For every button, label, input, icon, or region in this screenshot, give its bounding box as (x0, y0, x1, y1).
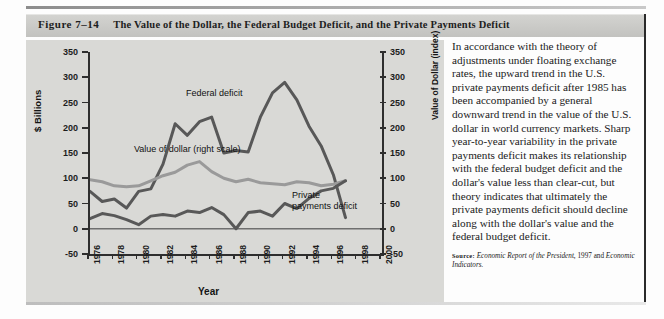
y-tick (82, 177, 88, 179)
y-tick (380, 51, 386, 53)
y2-axis-title: Value of Dollar (index) (430, 31, 440, 120)
y-tick (380, 127, 386, 129)
explanatory-paragraph: In accordance with the theory of adjustm… (452, 40, 638, 244)
x-tick (282, 254, 284, 259)
y-tick (380, 228, 386, 230)
x-axis-title: Year (198, 286, 219, 297)
x-tick-label: 1980 (141, 245, 151, 264)
y2-tick-label: -50 (390, 249, 420, 259)
series-label-federal-deficit: Federal deficit (186, 88, 243, 98)
y2-tick-label: 300 (390, 72, 420, 82)
y-tick-label: 350 (48, 47, 78, 57)
x-tick-label: 2000 (384, 245, 394, 264)
x-tick-label: 1986 (214, 245, 224, 264)
y-tick (380, 152, 386, 154)
y-tick (380, 177, 386, 179)
figure-title: The Value of the Dollar, the Federal Bud… (113, 19, 510, 30)
x-tick-label: 1998 (360, 245, 370, 264)
top-rule (26, 6, 646, 9)
y-tick-label: 150 (48, 148, 78, 158)
y2-tick-label: 350 (390, 47, 420, 57)
y-tick-label: 200 (48, 123, 78, 133)
series-label-value-of-dollar: Value of dollar (right scale) (134, 144, 240, 154)
y-tick (380, 76, 386, 78)
figure-number: Figure 7–14 (38, 18, 99, 30)
y-tick (82, 127, 88, 129)
y2-tick-label: 200 (390, 123, 420, 133)
y-tick-label: 100 (48, 173, 78, 183)
y-tick-label: 250 (48, 98, 78, 108)
x-tick-label: 1992 (287, 245, 297, 264)
x-tick-label: 1982 (165, 245, 175, 264)
x-tick-label: 1996 (335, 245, 345, 264)
x-tick (87, 254, 89, 259)
x-tick (306, 254, 308, 259)
x-tick-label: 1978 (116, 245, 126, 264)
source-label: Source: (452, 252, 475, 259)
y2-tick-label: 250 (390, 98, 420, 108)
y-tick (380, 102, 386, 104)
sidebar-text-column: In accordance with the theory of adjustm… (452, 40, 638, 302)
x-tick-label: 1976 (92, 245, 102, 264)
figure-right-border (644, 14, 646, 304)
x-tick-label: 1994 (311, 245, 321, 264)
x-tick (379, 254, 381, 259)
x-tick (355, 254, 357, 259)
x-tick (112, 254, 114, 259)
source-title-1: Economic Report of the President, (477, 252, 576, 260)
y-tick (82, 203, 88, 205)
y-tick (82, 51, 88, 53)
source-note: Source: Economic Report of the President… (452, 251, 638, 270)
y2-tick-label: 100 (390, 173, 420, 183)
x-tick (160, 254, 162, 259)
series-label-private-payments-deficit: Privatepayments deficit (292, 190, 350, 212)
x-tick-label: 1984 (189, 245, 199, 264)
y-tick (82, 102, 88, 104)
x-tick (185, 254, 187, 259)
x-tick (233, 254, 235, 259)
x-tick-label: 1988 (238, 245, 248, 264)
y-tick-label: 50 (48, 199, 78, 209)
y-axis-title: $ Billions (32, 90, 43, 132)
y-tick-label: -50 (48, 249, 78, 259)
x-tick (136, 254, 138, 259)
figure-page: Figure 7–14 The Value of the Dollar, the… (0, 0, 664, 319)
x-tick (331, 254, 333, 259)
plot-area (88, 52, 384, 256)
y-tick-label: 0 (48, 224, 78, 234)
x-tick (209, 254, 211, 259)
y2-tick-label: 0 (390, 224, 420, 234)
y-tick (82, 152, 88, 154)
x-tick-label: 1990 (262, 245, 272, 264)
y2-tick-label: 150 (390, 148, 420, 158)
x-tick (258, 254, 260, 259)
y-tick-label: 300 (48, 72, 78, 82)
y-tick (380, 203, 386, 205)
source-middle: 1997 and (576, 252, 606, 260)
chart-panel: $ Billions Value of Dollar (index) Year … (26, 40, 444, 302)
figure-banner: Figure 7–14 The Value of the Dollar, the… (26, 14, 644, 37)
y-tick (82, 228, 88, 230)
series-line-1 (90, 162, 346, 187)
bottom-shadow (26, 302, 646, 305)
y2-tick-label: 50 (390, 199, 420, 209)
y-tick (82, 76, 88, 78)
